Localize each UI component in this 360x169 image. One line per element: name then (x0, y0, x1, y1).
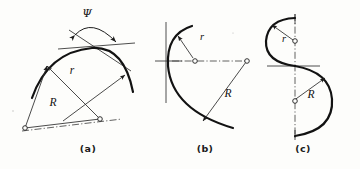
panel-b-center-large (245, 59, 250, 64)
panel-b-radius-r-leader (178, 36, 193, 58)
scan-speck (232, 32, 233, 33)
panel-b-center-small (193, 59, 198, 64)
panel-c-label-R: R (306, 88, 314, 100)
panel-b-group: r R (b) (155, 22, 249, 154)
panel-a-group: Ψ r R (a) (22, 7, 135, 154)
panel-a-center-connector (25, 119, 100, 128)
panel-a-radius-R-leader (25, 66, 47, 128)
panel-c-upper-arc (266, 18, 295, 66)
panel-a-label-R: R (48, 96, 56, 108)
panel-a-center-far (23, 126, 28, 131)
figure-container: Ψ r R (a) r R (b) (0, 0, 360, 169)
panel-c-lower-arc (295, 66, 332, 136)
panel-c-group: r R (c) (266, 14, 332, 154)
panel-a-angle-arc (75, 27, 116, 42)
panel-b-label-r: r (200, 31, 205, 42)
panel-a-label-psi: Ψ (82, 7, 92, 20)
scan-speck (12, 110, 13, 111)
panel-b-caption: (b) (197, 143, 214, 154)
panel-c-caption: (c) (295, 143, 311, 154)
panel-a-radius-r-right-leader (63, 75, 125, 121)
panel-a-label-r: r (70, 64, 75, 76)
panel-a-caption: (a) (80, 143, 96, 154)
panel-c-center-small (293, 39, 298, 44)
panel-c-center-large (293, 99, 298, 104)
panel-a-center-near (98, 117, 103, 122)
panel-a-center-axis (22, 119, 122, 131)
panel-b-label-R: R (223, 87, 231, 99)
panel-a-primary-arc (32, 48, 133, 98)
technical-line-drawing: Ψ r R (a) r R (b) (0, 0, 360, 169)
